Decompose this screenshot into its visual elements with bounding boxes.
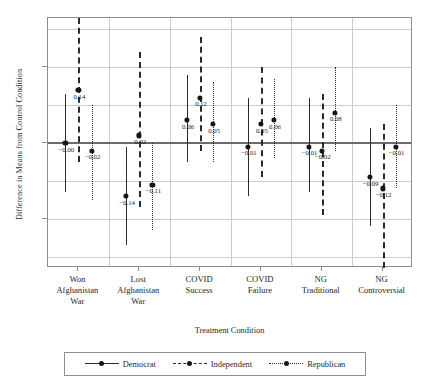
error-bar [139, 52, 141, 207]
legend-dot-icon [99, 361, 104, 366]
error-bar [200, 37, 202, 151]
legend-label: Republican [306, 360, 345, 369]
legend: DemocratIndependentRepublican [64, 352, 366, 376]
y-axis-title: Difference in Means from Control Conditi… [15, 20, 24, 270]
x-axis-tick-label-line: Controversial [340, 285, 424, 296]
x-axis-tick-mark [199, 267, 200, 271]
data-point-label: −0.11 [146, 187, 161, 194]
legend-key-icon [269, 360, 303, 368]
legend-item-independent[interactable]: Independent [173, 360, 252, 369]
data-point-label: −0.02 [315, 153, 331, 160]
legend-dot-icon [284, 361, 289, 366]
data-point-label: 0.12 [195, 100, 207, 107]
data-point-label: −0.01 [241, 149, 257, 156]
horizontal-gridline [48, 219, 411, 220]
data-point-label: 0.14 [73, 93, 85, 100]
x-axis-tick-label-line: NG [340, 274, 424, 285]
horizontal-gridline [48, 29, 411, 30]
x-axis-tick-mark [382, 267, 383, 271]
horizontal-gridline [48, 67, 411, 68]
x-axis-tick-label: NGControversial [340, 274, 424, 296]
x-axis-tick-mark [77, 267, 78, 271]
horizontal-gridline [48, 257, 411, 258]
data-point-label: 0.02 [134, 138, 146, 145]
x-axis-tick-mark [321, 267, 322, 271]
data-point-label: −0.09 [363, 180, 379, 187]
data-point-label: −0.02 [85, 153, 101, 160]
legend-item-republican[interactable]: Republican [269, 360, 345, 369]
zero-reference-line [48, 142, 411, 144]
legend-key-icon [173, 360, 207, 368]
data-point-label: 0.05 [208, 127, 220, 134]
legend-label: Independent [210, 360, 252, 369]
data-point-label: 0.05 [256, 127, 268, 134]
error-bar [335, 67, 336, 150]
data-point-label: −0.00 [58, 146, 74, 153]
x-axis-title: Treatment Condition [47, 326, 412, 335]
data-point-label: −0.01 [389, 149, 405, 156]
x-axis-tick-label-line: War [96, 296, 180, 307]
x-axis-tick-mark [260, 267, 261, 271]
legend-item-democrat[interactable]: Democrat [85, 360, 156, 369]
data-point-label: 0.06 [182, 123, 194, 130]
data-point-label: −0.14 [119, 199, 135, 206]
horizontal-gridline [48, 105, 411, 106]
data-point-label: −0.12 [376, 191, 392, 198]
data-point-label: 0.06 [269, 123, 281, 130]
x-axis-tick-mark [138, 267, 139, 271]
horizontal-gridline [48, 181, 411, 182]
legend-label: Democrat [122, 360, 156, 369]
plot-area: −0.00−0.140.06−0.01−0.01−0.090.140.020.1… [47, 17, 412, 267]
legend-dot-icon [187, 361, 192, 366]
figure-container: Difference in Means from Control Conditi… [0, 0, 429, 390]
data-point-label: 0.08 [330, 115, 342, 122]
legend-key-icon [85, 360, 119, 368]
